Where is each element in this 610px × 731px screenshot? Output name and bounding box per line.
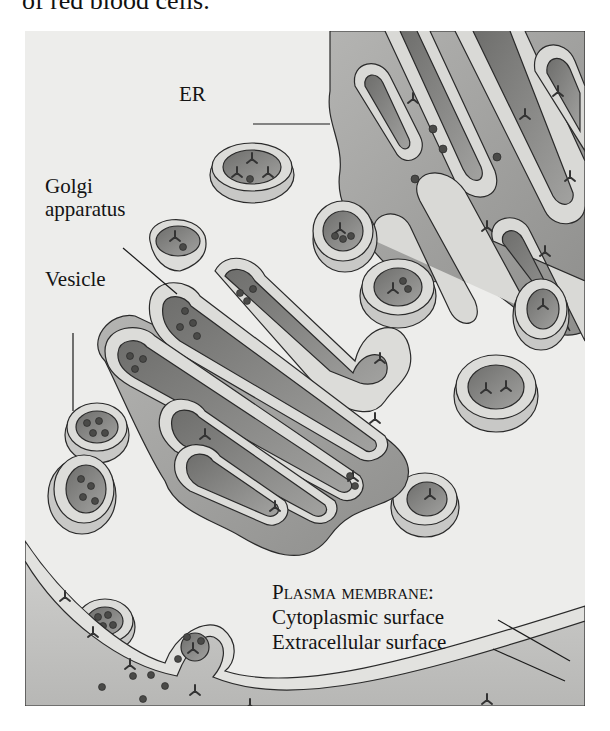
er-label: ER [179, 82, 206, 106]
golgi-stack [98, 220, 411, 556]
plasma-membrane-heading: Plasma membrane: [272, 580, 434, 604]
golgi-label-line1: Golgi [45, 174, 93, 198]
vesicle-label: Vesicle [45, 267, 106, 291]
top-caption-text: of red blood cells. [22, 0, 210, 16]
cell-figure: ER Golgi apparatus Vesicle Plasma membra… [25, 31, 585, 706]
golgi-label-line2: apparatus [45, 197, 125, 221]
extracellular-surface-label: Extracellular surface [272, 630, 446, 654]
cytoplasmic-surface-label: Cytoplasmic surface [272, 605, 444, 629]
